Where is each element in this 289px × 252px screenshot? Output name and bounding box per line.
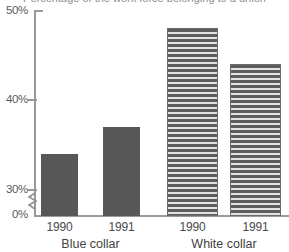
- bar-blue-collar-1990: [41, 154, 78, 216]
- bar-white-collar-1990: [167, 28, 218, 216]
- axis-break-icon: [26, 192, 40, 210]
- group-label-white-collar: White collar: [167, 237, 281, 251]
- bar-blue-collar-1991: [103, 127, 140, 216]
- bar-chart: Percentage of the work force belonging t…: [0, 0, 289, 252]
- y-axis-top-cap: [34, 10, 43, 12]
- x-tick-label-white-1991: 1991: [230, 221, 281, 234]
- bar-white-collar-1991: [230, 64, 281, 216]
- y-tick-label-30: 30%: [0, 184, 28, 195]
- y-tick-30: [28, 189, 37, 191]
- y-axis-line: [34, 10, 36, 217]
- y-tick-label-0: 0%: [0, 209, 28, 220]
- x-tick-label-blue-1991: 1991: [103, 221, 140, 234]
- x-tick-label-blue-1990: 1990: [41, 221, 78, 234]
- y-tick-40: [28, 99, 37, 101]
- x-tick-label-white-1990: 1990: [167, 221, 218, 234]
- group-label-blue-collar: Blue collar: [41, 237, 140, 251]
- plot-area: 50% 40% 30% 0% 1990 1991 1990 1991 Blue …: [0, 0, 289, 252]
- y-tick-label-50: 50%: [0, 5, 28, 16]
- y-tick-label-40: 40%: [0, 94, 28, 105]
